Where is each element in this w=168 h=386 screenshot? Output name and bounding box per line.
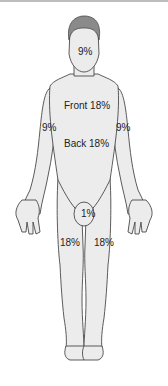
label-back-torso: Back 18%: [64, 139, 109, 149]
label-right-leg: 18%: [94, 238, 114, 248]
body-figure: [0, 0, 168, 386]
left-hand: [16, 200, 40, 234]
label-front-torso: Front 18%: [64, 101, 110, 111]
label-head: 9%: [78, 47, 92, 57]
label-left-arm: 9%: [42, 123, 56, 133]
right-foot: [83, 346, 104, 360]
label-genitals: 1%: [81, 209, 95, 219]
label-right-arm: 9%: [116, 123, 130, 133]
label-left-leg: 18%: [60, 238, 80, 248]
right-hand: [128, 200, 152, 234]
